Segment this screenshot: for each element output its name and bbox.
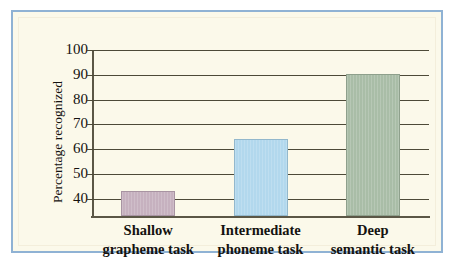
bar: [121, 191, 175, 216]
y-axis-tick-labels: 100908070605040: [52, 50, 88, 216]
figure-frame: Percentage recognized 100908070605040 Sh…: [11, 10, 443, 253]
plot-area: [92, 50, 429, 216]
x-axis-category-labels: Shallowgrapheme taskIntermediatephoneme …: [92, 221, 429, 265]
y-axis-tick-label: 90: [54, 67, 88, 82]
figure-inner-panel: Percentage recognized 100908070605040 Sh…: [18, 17, 436, 246]
gridline: [92, 50, 429, 51]
x-axis-category-label: Shallowgrapheme task: [92, 221, 204, 259]
x-label-line-1: Shallow: [92, 221, 204, 240]
y-axis-tick-label: 40: [54, 191, 88, 206]
y-axis-tick-mark: [87, 199, 92, 200]
y-axis-tick-mark: [87, 75, 92, 76]
y-axis-tick-mark: [87, 149, 92, 150]
x-label-line-2: semantic task: [317, 240, 429, 259]
y-axis-tick-label: 100: [54, 42, 88, 57]
y-axis-tick-mark: [87, 100, 92, 101]
x-axis-line: [91, 216, 430, 218]
x-axis-category-label: Intermediatephoneme task: [204, 221, 316, 259]
y-axis-tick-mark: [87, 50, 92, 51]
y-axis-tick-label: 50: [54, 166, 88, 181]
bar: [346, 74, 400, 216]
x-label-line-2: grapheme task: [92, 240, 204, 259]
y-axis-tick-label: 60: [54, 141, 88, 156]
bar: [234, 139, 288, 216]
y-axis-tick-label: 80: [54, 92, 88, 107]
y-axis-tick-label: 70: [54, 116, 88, 131]
x-label-line-2: phoneme task: [204, 240, 316, 259]
y-axis-tick-mark: [87, 174, 92, 175]
bar-texture: [347, 75, 399, 215]
x-axis-category-label: Deepsemantic task: [317, 221, 429, 259]
y-axis-tick-mark: [87, 124, 92, 125]
bar-texture: [235, 140, 287, 215]
x-label-line-1: Intermediate: [204, 221, 316, 240]
x-label-line-1: Deep: [317, 221, 429, 240]
bar-texture: [122, 192, 174, 215]
